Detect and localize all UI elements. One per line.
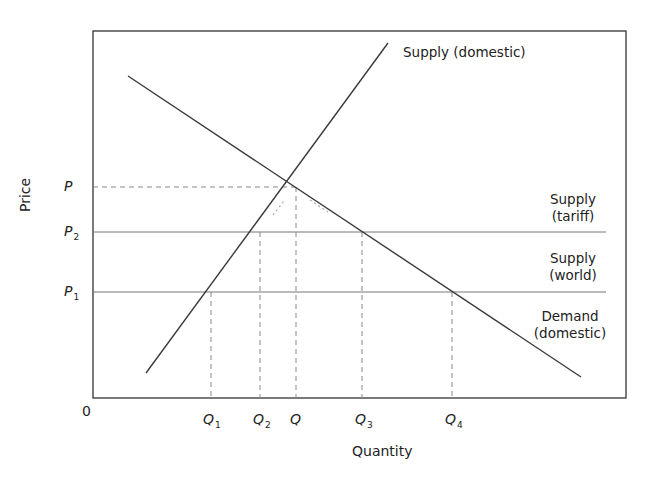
supply-tariff-label: Supply (tariff) (538, 191, 608, 225)
y-tick-p: P (64, 179, 72, 193)
supply-domestic-line (146, 43, 388, 373)
x-tick-q4: Q4 (445, 412, 463, 430)
demand-domestic-label: Demand (domestic) (528, 308, 612, 342)
y-tick-p1: P1 (64, 284, 79, 302)
y-axis-label: Price (18, 178, 32, 212)
x-tick-q3: Q3 (355, 412, 373, 430)
chart-canvas (0, 0, 659, 490)
y-tick-p2: P2 (64, 224, 79, 242)
demand-domestic-line (128, 76, 581, 377)
x-tick-q: Q (290, 412, 301, 426)
x-axis-label: Quantity (352, 444, 413, 458)
x-tick-q1: Q1 (203, 412, 221, 430)
deadweight-mark-right (310, 200, 328, 212)
deadweight-mark-left (273, 201, 284, 215)
supply-world-label: Supply (world) (538, 250, 608, 284)
supply-domestic-label: Supply (domestic) (403, 44, 526, 61)
origin-label: 0 (82, 404, 91, 418)
x-tick-q2: Q2 (253, 412, 271, 430)
